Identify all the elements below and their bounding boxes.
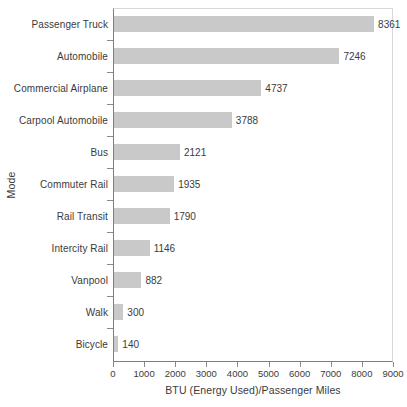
bar-row: Bus2121 <box>0 136 407 168</box>
x-axis-tick <box>393 362 394 367</box>
bar <box>114 112 232 128</box>
x-axis-tick <box>237 362 238 367</box>
bar <box>114 272 141 288</box>
bar-value-label: 1790 <box>174 200 196 232</box>
category-label: Automobile <box>18 40 108 72</box>
bar-row: Carpool Automobile3788 <box>0 104 407 136</box>
bar <box>114 208 170 224</box>
category-label: Commuter Rail <box>18 168 108 200</box>
bar <box>114 16 374 32</box>
bar <box>114 336 118 352</box>
category-label: Commercial Airplane <box>18 72 108 104</box>
category-label: Intercity Rail <box>18 232 108 264</box>
y-axis-tick <box>107 200 113 201</box>
bar <box>114 80 261 96</box>
x-axis-tick <box>113 362 114 367</box>
y-axis-tick <box>107 264 113 265</box>
y-axis-tick <box>107 136 113 137</box>
x-axis-tick <box>269 362 270 367</box>
y-axis-tick <box>107 232 113 233</box>
x-axis-tick <box>144 362 145 367</box>
bar-value-label: 140 <box>122 328 139 360</box>
category-label: Walk <box>18 296 108 328</box>
x-axis-tick <box>362 362 363 367</box>
bar-value-label: 2121 <box>184 136 206 168</box>
bar-row: Rail Transit1790 <box>0 200 407 232</box>
x-axis-tick <box>206 362 207 367</box>
bar-value-label: 300 <box>127 296 144 328</box>
category-label: Passenger Truck <box>18 8 108 40</box>
bar-value-label: 3788 <box>236 104 258 136</box>
category-label: Rail Transit <box>18 200 108 232</box>
bar-row: Vanpool882 <box>0 264 407 296</box>
bar <box>114 144 180 160</box>
bar-value-label: 1935 <box>178 168 200 200</box>
category-label: Bus <box>18 136 108 168</box>
y-axis-tick <box>107 168 113 169</box>
bar-row: Passenger Truck8361 <box>0 8 407 40</box>
bar <box>114 304 123 320</box>
bar-row: Bicycle140 <box>0 328 407 360</box>
bar-value-label: 1146 <box>154 232 176 264</box>
y-axis-tick <box>107 40 113 41</box>
bar-value-label: 7246 <box>343 40 365 72</box>
bar <box>114 176 174 192</box>
y-axis-tick <box>107 104 113 105</box>
y-axis-tick <box>107 328 113 329</box>
bar-value-label: 4737 <box>265 72 287 104</box>
x-axis-tick <box>175 362 176 367</box>
bar-value-label: 8361 <box>378 8 400 40</box>
x-axis-tick <box>331 362 332 367</box>
bar-row: Commercial Airplane4737 <box>0 72 407 104</box>
x-axis-tick <box>300 362 301 367</box>
bar-value-label: 882 <box>145 264 162 296</box>
category-label: Vanpool <box>18 264 108 296</box>
y-axis-tick <box>107 296 113 297</box>
category-label: Carpool Automobile <box>18 104 108 136</box>
bar-row: Intercity Rail1146 <box>0 232 407 264</box>
bar <box>114 48 339 64</box>
bar-row: Walk300 <box>0 296 407 328</box>
category-label: Bicycle <box>18 328 108 360</box>
bar-row: Commuter Rail1935 <box>0 168 407 200</box>
bar <box>114 240 150 256</box>
x-axis-title: BTU (Energy Used)/Passenger Miles <box>113 384 393 396</box>
x-axis-tick-label: 9000 <box>373 368 407 379</box>
bar-row: Automobile7246 <box>0 40 407 72</box>
bar-chart: Mode Passenger Truck8361Automobile7246Co… <box>0 0 407 407</box>
y-axis-tick <box>107 72 113 73</box>
